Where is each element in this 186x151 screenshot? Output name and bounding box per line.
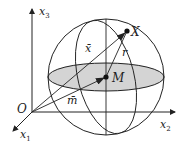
point-M [103,74,108,79]
vector-x-label: x̄ [85,42,92,55]
center-M-label: M [111,71,125,85]
origin-label: O [17,102,27,116]
x3-axis-label: x3 [39,5,50,20]
radius-label: r [122,46,128,59]
point-X-label: X [130,25,140,39]
vector-m-label: m̄ [67,94,77,107]
point-X [124,28,129,33]
x1-axis-label: x1 [20,128,31,143]
sphere-diagram: x3 x2 x1 O X M x̄ m̄ r [0,0,186,151]
x2-axis-label: x2 [160,118,171,133]
